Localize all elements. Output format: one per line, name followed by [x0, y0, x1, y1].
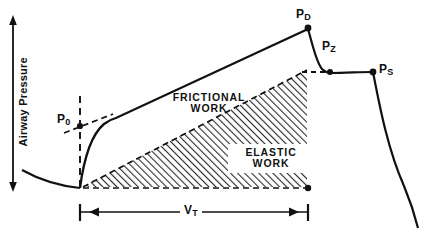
point-dot-p0	[77, 123, 83, 129]
point-label-pz: PZ	[322, 40, 336, 53]
baseline-left-curve	[22, 170, 80, 188]
airway-pressure-figure: Airway Pressure P0 PD PZ PS FRICTIONAL W…	[0, 0, 421, 233]
tidal-volume-label: VT	[180, 204, 202, 217]
point-label-pd: PD	[296, 8, 311, 21]
plateau-curve	[331, 72, 372, 73]
point-label-pz-subscript: Z	[330, 44, 336, 54]
point-label-p0-subscript: 0	[65, 117, 70, 127]
frictional-work-label: FRICTIONAL WORK	[161, 92, 257, 114]
point-dot-baseline-end	[305, 185, 311, 191]
point-label-p0: P0	[57, 113, 70, 126]
point-dot-ps	[370, 69, 377, 76]
tidal-volume-label-subscript: T	[192, 208, 198, 218]
point-label-pd-subscript: D	[304, 12, 311, 22]
point-dot-pz	[327, 69, 333, 75]
expiratory-decay-curve	[373, 72, 418, 228]
elastic-work-label: ELASTIC WORK	[228, 144, 314, 173]
point-label-ps-subscript: S	[387, 67, 393, 77]
y-axis-label: Airway Pressure	[18, 42, 30, 162]
y-axis-arrow-icon	[9, 15, 17, 192]
point-label-ps: PS	[379, 63, 393, 76]
point-dot-pd	[305, 25, 312, 32]
elastic-work-label-line2: WORK	[233, 158, 309, 169]
frictional-work-label-line2: WORK	[161, 103, 257, 114]
